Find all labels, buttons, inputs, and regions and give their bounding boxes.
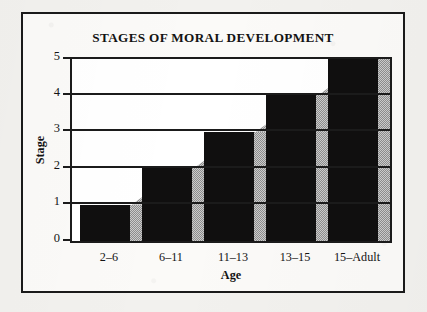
xtick-label-5: 15–Adult	[322, 250, 392, 265]
ytick-label-1: 1	[38, 194, 60, 209]
bar-shadow-5	[378, 59, 390, 241]
bar-shadow-1	[130, 205, 142, 241]
bar-slot-2	[142, 59, 204, 241]
chart-title: STAGES OF MORAL DEVELOPMENT	[23, 30, 403, 46]
gridline-3	[70, 129, 392, 131]
bar-5[interactable]	[328, 59, 378, 241]
xtick-label-3: 11–13	[202, 250, 264, 265]
ytick-mark-2	[63, 166, 70, 168]
bar-3[interactable]	[204, 132, 254, 241]
bar-slot-3	[204, 59, 266, 241]
ytick-label-2: 2	[38, 158, 60, 173]
ytick-mark-4	[63, 93, 70, 95]
ytick-label-5: 5	[38, 49, 60, 64]
ytick-mark-0	[63, 239, 70, 241]
ytick-label-3: 3	[38, 121, 60, 136]
xtick-label-4: 13–15	[264, 250, 326, 265]
xtick-label-1: 2–6	[78, 250, 140, 265]
figure-frame: STAGES OF MORAL DEVELOPMENT 5 4 3 2 1 0	[21, 12, 405, 293]
bar-shadow-4	[316, 95, 328, 241]
ytick-label-0: 0	[38, 231, 60, 246]
gridline-1	[70, 202, 392, 204]
bar-2[interactable]	[142, 168, 192, 241]
bar-slot-4	[266, 59, 328, 241]
ytick-mark-3	[63, 129, 70, 131]
bars-layer	[72, 59, 390, 241]
x-axis-title: Age	[70, 268, 392, 283]
bar-slot-1	[80, 59, 142, 241]
ytick-mark-1	[63, 202, 70, 204]
plot-area: 5 4 3 2 1 0	[70, 57, 392, 243]
gridline-2	[70, 166, 392, 168]
bar-4[interactable]	[266, 95, 316, 241]
ytick-label-4: 4	[38, 85, 60, 100]
bar-slot-5	[328, 59, 390, 241]
gridline-5	[70, 57, 392, 59]
ytick-mark-5	[63, 57, 70, 59]
bar-shadow-3	[254, 132, 266, 241]
gridline-4	[70, 93, 392, 95]
xtick-label-2: 6–11	[140, 250, 202, 265]
bar-1[interactable]	[80, 205, 130, 241]
bar-shadow-2	[192, 168, 204, 241]
